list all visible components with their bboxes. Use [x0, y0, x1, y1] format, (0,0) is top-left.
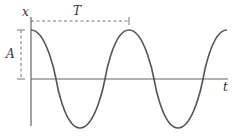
- y-axis-label: x: [22, 5, 29, 19]
- x-axis-label: t: [223, 80, 228, 94]
- amplitude-label: A: [5, 47, 15, 61]
- period-label: T: [73, 4, 82, 18]
- oscillation-diagram: x T A t: [0, 0, 237, 138]
